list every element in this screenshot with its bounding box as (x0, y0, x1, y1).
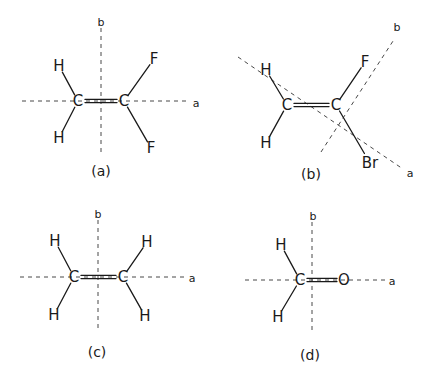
axis-a-label: a (193, 97, 200, 110)
atom-c: C (295, 271, 305, 289)
axis-b-label: b (98, 16, 105, 29)
axis-a-label: a (389, 275, 396, 288)
atom-h: H (272, 308, 283, 326)
atom-f: F (147, 139, 156, 157)
atom-h: H (260, 61, 271, 79)
atom-h: H (139, 307, 150, 325)
panel-label-d: (d) (300, 347, 320, 363)
atom-h: H (53, 129, 64, 147)
atom-h: H (48, 306, 59, 324)
axis-b-label: b (95, 208, 102, 221)
atom-c: C (331, 96, 341, 114)
axis-a-label: a (407, 167, 414, 180)
molecular-axes-diagram: abCCHHFF(a)abCCHHFBr(b)abCCHHHH(c)abCOHH… (0, 0, 431, 377)
axis-b-label: b (310, 210, 317, 223)
atom-c: C (73, 92, 83, 110)
atom-o: O (338, 271, 350, 289)
atom-h: H (275, 236, 286, 254)
panel-label-c: (c) (88, 344, 107, 360)
panel-label-a: (a) (91, 163, 111, 179)
atom-c: C (119, 92, 129, 110)
atom-c: C (118, 268, 128, 286)
atom-f: F (150, 50, 159, 68)
atom-c: C (69, 268, 79, 286)
panel-label-b: (b) (301, 166, 321, 182)
axis-a-label: a (189, 272, 196, 285)
atom-f: F (361, 53, 370, 71)
atom-h: H (49, 232, 60, 250)
atom-h: H (53, 57, 64, 75)
atom-h: H (141, 233, 152, 251)
axis-b-label: b (394, 21, 401, 34)
atom-c: C (282, 96, 292, 114)
atom-br: Br (362, 154, 379, 172)
atom-h: H (260, 134, 271, 152)
